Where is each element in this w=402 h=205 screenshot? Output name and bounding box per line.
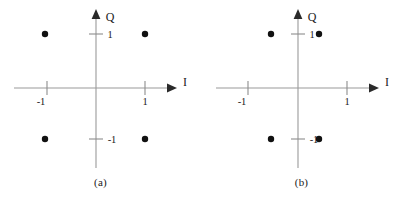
panel-b-y-axis-label: Q bbox=[308, 10, 317, 24]
panel-b-constellation-point bbox=[316, 31, 322, 37]
panel-a-ytick-label-minus1: -1 bbox=[108, 134, 117, 145]
panel-a-constellation-point bbox=[42, 31, 48, 37]
panel-b-constellation-point bbox=[316, 136, 322, 142]
panel-a-xtick-label-plus1: 1 bbox=[142, 96, 147, 107]
panel-a-ytick-label-plus1: 1 bbox=[107, 29, 112, 40]
panel-b-constellation-point bbox=[268, 31, 274, 37]
panel-b-xtick-label-minus1: -1 bbox=[238, 96, 247, 107]
panel-a-xtick-label-minus1: -1 bbox=[37, 96, 46, 107]
panel-a-x-axis-label: I bbox=[183, 75, 187, 89]
panel-b-constellation-point bbox=[268, 136, 274, 142]
panel-a-caption: (a) bbox=[0, 176, 201, 188]
panel-a-y-axis-label: Q bbox=[106, 10, 115, 24]
panel-a-q-axis-arrowhead bbox=[92, 9, 101, 19]
panel-a-constellation-point bbox=[142, 31, 148, 37]
panel-b-x-axis-label: I bbox=[385, 75, 389, 89]
panel-a-constellation-point bbox=[42, 136, 48, 142]
panel-a-plot: -1 1 1 -1 I Q bbox=[0, 0, 201, 175]
panel-a-constellation-point bbox=[142, 136, 148, 142]
panel-b-plot: -1 1 1 -1 I Q bbox=[201, 0, 402, 175]
panel-b: -1 1 1 -1 I Q (b) bbox=[201, 0, 402, 205]
panel-a-i-axis-arrowhead bbox=[167, 84, 177, 93]
panel-b-i-axis-arrowhead bbox=[369, 84, 379, 93]
panel-b-q-axis-arrowhead bbox=[294, 9, 303, 19]
panel-b-xtick-label-plus1: 1 bbox=[344, 96, 349, 107]
panel-b-ytick-label-plus1: 1 bbox=[309, 29, 314, 40]
panel-a: -1 1 1 -1 I Q (a) bbox=[0, 0, 201, 205]
panel-b-caption: (b) bbox=[201, 176, 402, 188]
constellation-figure: -1 1 1 -1 I Q (a) bbox=[0, 0, 402, 205]
